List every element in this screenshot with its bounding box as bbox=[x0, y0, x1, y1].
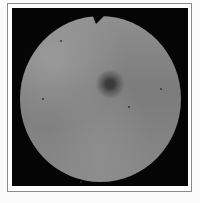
artifact-spot bbox=[42, 98, 44, 100]
artifact-spot bbox=[160, 88, 162, 90]
artifact-spot bbox=[60, 40, 62, 42]
fundus-notch bbox=[92, 14, 106, 24]
fundus-disc bbox=[20, 16, 181, 182]
artifact-spot bbox=[80, 181, 82, 183]
artifact-spot bbox=[128, 106, 130, 108]
image-background bbox=[12, 8, 188, 186]
